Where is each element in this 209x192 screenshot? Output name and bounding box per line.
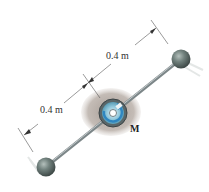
sphere-top-right	[172, 50, 191, 69]
diagram-canvas	[0, 0, 209, 192]
hub-assembly	[99, 99, 127, 127]
dimension-label-lower: 0.4 m	[40, 105, 63, 115]
diagram: 0.4 m 0.4 m M	[0, 0, 209, 192]
arrowhead-middle-upper	[88, 77, 94, 83]
hub-axle	[110, 110, 117, 117]
extension-line-bottom	[18, 128, 33, 152]
arrowhead-middle-lower	[82, 83, 88, 89]
extension-line-top	[151, 20, 168, 44]
arrowhead-bottom	[24, 129, 31, 135]
dimension-label-upper: 0.4 m	[106, 51, 129, 61]
arrowhead-top	[150, 28, 156, 34]
moment-label: M	[130, 124, 139, 134]
sphere-bottom-left	[37, 158, 56, 177]
